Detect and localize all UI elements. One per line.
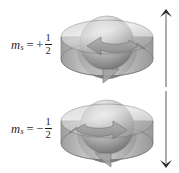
spin-up-sign: + xyxy=(36,38,43,53)
spin-quantum-number-subscript: s xyxy=(21,43,24,52)
fraction-numerator: 1 xyxy=(45,33,52,44)
one-half-fraction: 1 2 xyxy=(45,117,52,141)
spin-quantum-number-symbol: m xyxy=(11,122,20,137)
spin-quantum-number-subscript: s xyxy=(21,127,24,136)
spin-down-sign: − xyxy=(36,122,43,137)
fraction-denominator: 2 xyxy=(45,46,52,57)
spinning-disc-clockwise xyxy=(59,93,155,173)
equals-sign: = xyxy=(27,122,34,137)
spin-down-label: ms = − 1 2 xyxy=(11,117,52,141)
magnetic-moment-arrow-down xyxy=(155,89,177,171)
spin-quantum-number-symbol: m xyxy=(11,38,20,53)
fraction-numerator: 1 xyxy=(45,117,52,128)
spin-up-label: ms = + 1 2 xyxy=(11,33,52,57)
spinning-disc-counterclockwise xyxy=(59,9,155,91)
one-half-fraction: 1 2 xyxy=(45,33,52,57)
fraction-denominator: 2 xyxy=(45,130,52,141)
spin-states-figure: ms = + 1 2 xyxy=(0,0,179,173)
magnetic-moment-arrow-up xyxy=(155,7,177,89)
equals-sign: = xyxy=(27,38,34,53)
